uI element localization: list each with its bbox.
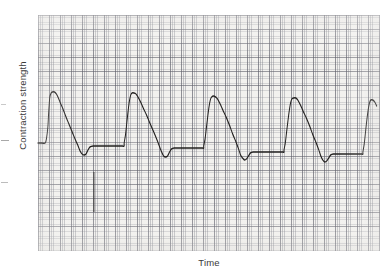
contraction-trace-svg xyxy=(38,15,380,251)
x-axis-label: Time xyxy=(38,257,380,268)
edge-tick-mark xyxy=(1,104,6,105)
y-axis-label: Contraction strength xyxy=(17,46,28,166)
contraction-recording-figure: Contraction strength Time xyxy=(0,0,386,274)
edge-tick-mark xyxy=(1,140,9,141)
chart-recorder-paper xyxy=(38,15,380,251)
contraction-trace-line xyxy=(38,92,377,162)
edge-tick-mark xyxy=(1,182,8,183)
